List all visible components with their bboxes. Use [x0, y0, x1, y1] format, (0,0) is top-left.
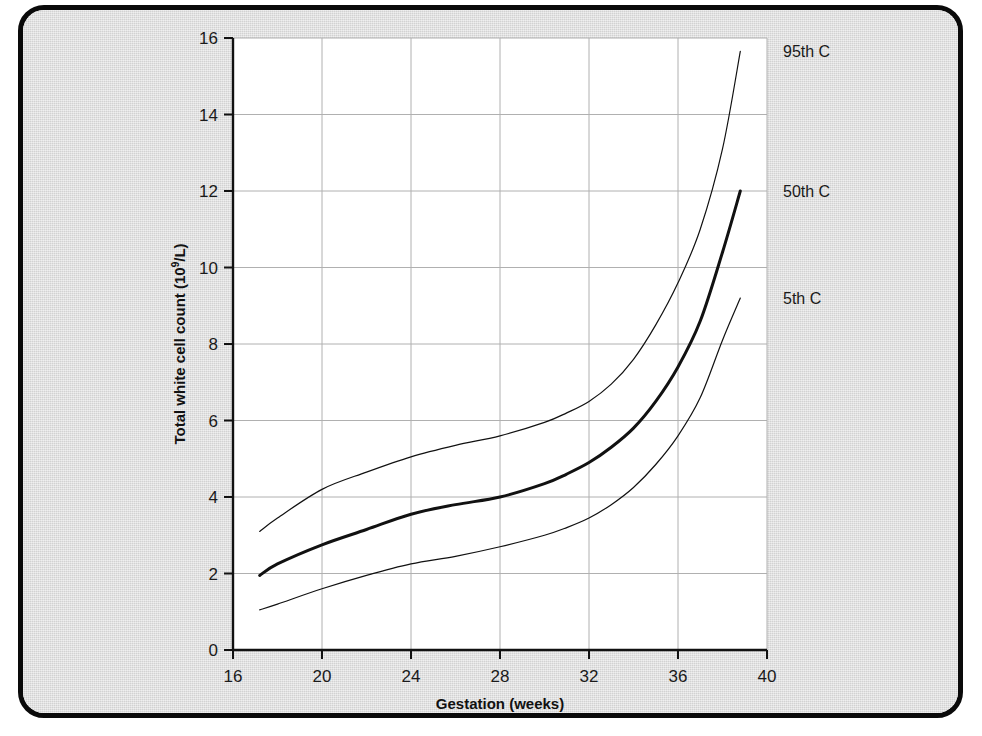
y-tick-label: 6	[209, 412, 218, 431]
curve-label-95th-c: 95th C	[783, 43, 830, 60]
curve-label-50th-c: 50th C	[783, 183, 830, 200]
y-tick-label: 16	[199, 29, 218, 48]
curve-annotation-labels: 95th C50th C5th C	[783, 43, 830, 307]
y-tick-label: 2	[209, 565, 218, 584]
x-axis-ticks	[233, 650, 767, 659]
x-axis-tick-labels: 16202428323640	[224, 667, 777, 686]
x-tick-label: 24	[402, 667, 421, 686]
y-tick-label: 10	[199, 259, 218, 278]
y-axis-title-tail: /L)	[171, 243, 188, 261]
white-cell-count-chart: 0246810121416 16202428323640 95th C50th …	[23, 10, 963, 718]
y-tick-label: 12	[199, 182, 218, 201]
y-tick-label: 8	[209, 335, 218, 354]
curve-label-5th-c: 5th C	[783, 290, 821, 307]
x-tick-label: 40	[758, 667, 777, 686]
x-tick-label: 20	[313, 667, 332, 686]
y-axis-ticks	[224, 38, 233, 650]
y-axis-title-main: Total white cell count (10	[171, 267, 188, 444]
x-tick-label: 16	[224, 667, 243, 686]
x-tick-label: 36	[669, 667, 688, 686]
y-axis-tick-labels: 0246810121416	[199, 29, 218, 660]
y-tick-label: 4	[209, 488, 218, 507]
y-tick-label: 0	[209, 641, 218, 660]
x-tick-label: 28	[491, 667, 510, 686]
y-tick-label: 14	[199, 106, 218, 125]
x-axis-title: Gestation (weeks)	[436, 695, 564, 712]
y-axis-title: Total white cell count (109/L)	[170, 243, 188, 444]
x-tick-label: 32	[580, 667, 599, 686]
figure-frame: 0246810121416 16202428323640 95th C50th …	[18, 5, 963, 718]
